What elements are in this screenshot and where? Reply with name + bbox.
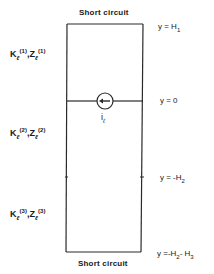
- right-line: [141, 24, 143, 252]
- interface-label-source: y = 0: [160, 96, 178, 105]
- layer-3-params: Kℓ(3),Zℓ(3): [10, 208, 45, 221]
- source-current-label: iℓ: [101, 112, 105, 124]
- layer-2-params: Kℓ(2),Zℓ(2): [10, 127, 45, 140]
- interface-label-bottom: y =-H2- H3: [157, 249, 194, 260]
- interface-label-top: y = H1: [158, 22, 180, 33]
- bottom-boundary-label: Short circuit: [78, 259, 128, 268]
- interface-label-mid: y = -H2: [160, 173, 185, 184]
- layer-1-params: Kℓ(1),Zℓ(1): [10, 48, 45, 61]
- top-boundary-label: Short circuit: [79, 8, 129, 17]
- current-source-icon: [97, 93, 113, 109]
- left-line: [66, 24, 67, 252]
